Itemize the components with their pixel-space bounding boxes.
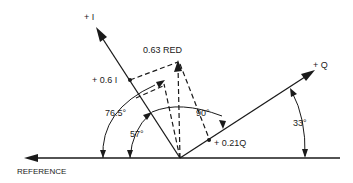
arc-arrowhead-icon bbox=[100, 150, 106, 158]
red-vector-label: 0.63 RED bbox=[143, 45, 183, 55]
iq-vector-diagram: + I + Q REFERENCE 0.63 RED + 0.6 I + 0.2… bbox=[0, 0, 353, 183]
q-component-label: + 0.21Q bbox=[214, 138, 246, 148]
angle-label-76-5: 76.5° bbox=[105, 108, 127, 118]
angle-label-90: 90° bbox=[196, 108, 210, 118]
q-component-point bbox=[207, 138, 211, 142]
reference-arrowhead-icon bbox=[24, 154, 38, 162]
plus-q-label: + Q bbox=[313, 60, 328, 70]
arc-arrowhead-icon bbox=[143, 112, 152, 120]
arc-arrowhead-icon bbox=[219, 120, 226, 129]
reference-axis bbox=[24, 154, 340, 162]
angle-arc-90 bbox=[152, 107, 222, 116]
i-component-point bbox=[128, 78, 132, 82]
plus-q-arrowhead-icon bbox=[301, 70, 315, 81]
angle-arc-76-5 bbox=[103, 85, 155, 158]
reference-label: REFERENCE bbox=[17, 167, 66, 176]
i-component-label: + 0.6 I bbox=[92, 75, 117, 85]
angle-label-57: 57° bbox=[130, 129, 144, 139]
arc-arrowhead-icon bbox=[302, 149, 308, 158]
arc-arrowhead-icon bbox=[127, 150, 133, 158]
plus-i-arrowhead-icon bbox=[96, 27, 107, 42]
plus-i-label: + I bbox=[84, 12, 94, 22]
angle-label-33: 33° bbox=[293, 118, 307, 128]
arc-arrowhead-icon bbox=[290, 88, 297, 97]
